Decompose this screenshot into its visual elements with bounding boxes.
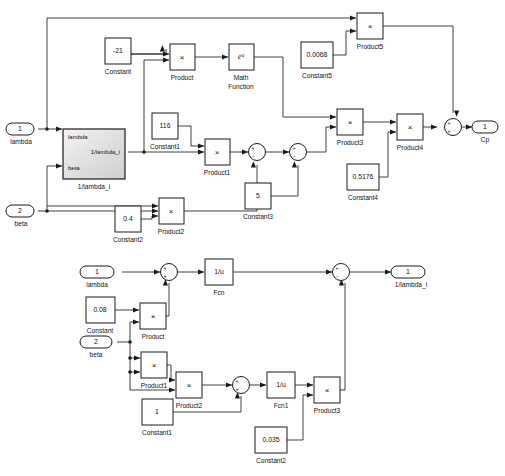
product-block-product4-name: Product4 (397, 144, 424, 151)
product-block-product3[interactable]: × Product3 (337, 109, 364, 146)
sum-block-bottom-sum-sign1: + (163, 265, 166, 271)
subsystem-1-over-lambda-i[interactable]: lambda beta 1/lambda_i 1/lambda_i (63, 129, 125, 191)
sum-block-bottom-sum2-sign-plus: + (335, 265, 338, 271)
inport-beta-bottom[interactable]: 2 beta (80, 336, 112, 358)
product-block-product3-symbol: × (348, 118, 353, 127)
fcn-block-fcn-expr: 1/u (214, 268, 224, 275)
inport-lambda-bottom-label: lambda (86, 281, 108, 288)
product-block-product[interactable]: × Product (170, 44, 195, 81)
constant-block-0-0068-value: 0.0068 (307, 51, 328, 58)
constant-block-0-0068-name: Constant5 (302, 72, 332, 79)
inport-beta-top-label: beta (15, 220, 28, 227)
constant-block-minus21-value: -21 (113, 47, 123, 54)
product-block-bottom-product3-name: Product3 (314, 407, 341, 414)
inport-beta-top-number: 2 (18, 207, 22, 214)
product-block-product4[interactable]: × Product4 (397, 114, 424, 151)
constant-block-0-08[interactable]: 0.08 Constant (86, 297, 115, 334)
product-block-product4-symbol: × (408, 123, 413, 132)
inport-beta-top[interactable]: 2 beta (6, 205, 34, 227)
inport-beta-bottom-number: 2 (94, 338, 98, 345)
constant-block-0-4[interactable]: 0.4 Constant2 (113, 206, 143, 243)
product-block-product5-name: Product5 (357, 43, 384, 50)
subsystem-name: 1/lambda_i (78, 183, 111, 191)
constant-block-minus21[interactable]: -21 Constant (105, 38, 132, 75)
constant-block-0-035-value: 0.035 (262, 436, 279, 443)
constant-block-116-name: Constant1 (150, 143, 180, 150)
constant-block-0-4-name: Constant2 (113, 236, 143, 243)
fcn-block-fcn1-expr: 1/u (276, 381, 286, 388)
constant-block-116-value: 116 (160, 122, 171, 129)
constant-block-1-value: 1 (155, 408, 159, 415)
product-block-product5[interactable]: × Product5 (357, 13, 384, 50)
product-block-bottom-product3[interactable]: × Product3 (314, 377, 341, 414)
product-block-bottom-product3-symbol: × (325, 386, 330, 395)
product-block-product2-name: Product2 (158, 228, 185, 235)
product-block-product1-name: Product1 (204, 169, 231, 176)
inport-lambda-bottom-number: 1 (95, 268, 99, 275)
product-block-bottom-product-name: Product (142, 333, 165, 340)
product-block-product-name: Product (171, 74, 194, 81)
sum-block-bottom-sum-sign2: + (163, 273, 166, 279)
sum-block-sum1[interactable]: + − (290, 144, 307, 161)
constant-block-5-name: Constant3 (243, 213, 273, 220)
constant-block-0-5176-name: Constant4 (348, 194, 378, 201)
product-block-bottom-product-symbol: × (151, 312, 156, 321)
inport-beta-bottom-label: beta (90, 351, 103, 358)
math-function-block-name-line2: Function (228, 83, 254, 90)
product-block-bottom-product2[interactable]: × Product2 (176, 372, 203, 409)
sum-block-bottom-sum2[interactable]: + − (333, 264, 350, 281)
product-block-bottom-product[interactable]: × Product (140, 303, 166, 340)
constant-block-0-08-name: Constant (87, 327, 114, 334)
product-block-bottom-product2-symbol: × (187, 381, 192, 390)
product-block-product1[interactable]: × Product1 (204, 139, 231, 176)
math-function-block-name-line1: Math (234, 74, 249, 81)
sum-block-sum-sign-minus: − (251, 153, 254, 159)
sum-block-bottom-sum1[interactable]: + + (233, 377, 250, 394)
sum-block-sum2-sign-plus2: + (447, 128, 450, 134)
sum-block-bottom-sum2-sign-minus: − (335, 273, 338, 279)
inport-lambda-top-label: lambda (10, 138, 32, 145)
product-block-bottom-product2-name: Product2 (176, 402, 203, 409)
constant-block-minus21-name: Constant (105, 68, 132, 75)
constant-block-0-4-value: 0.4 (123, 215, 133, 222)
sum-block-sum2-sign-plus1: + (447, 120, 450, 126)
fcn-block-fcn1-name: Fcn1 (274, 402, 289, 409)
outport-1-over-lambda-i-number: 1 (406, 268, 410, 275)
outport-1-over-lambda-i-label: 1/lambda_i (395, 281, 428, 289)
product-block-bottom-product1-symbol: × (152, 361, 157, 370)
constant-block-116[interactable]: 116 Constant1 (150, 113, 180, 150)
inport-lambda-top-number: 1 (18, 125, 22, 132)
constant-block-5-value: 5 (256, 192, 260, 199)
diagram-canvas: 1 lambda 2 beta lambda beta 1/lambda_i 1… (0, 0, 505, 476)
subsystem-outport-label: 1/lambda_i (91, 149, 120, 155)
constant-block-0-0068[interactable]: 0.0068 Constant5 (301, 42, 333, 79)
product-block-product3-name: Product3 (337, 139, 364, 146)
sum-block-bottom-sum1-sign2: + (235, 386, 238, 392)
product-block-product2-symbol: × (169, 207, 174, 216)
sum-block-sum[interactable]: + − (249, 144, 266, 161)
constant-block-1[interactable]: 1 Constant1 (142, 399, 173, 436)
inport-lambda-top[interactable]: 1 lambda (6, 123, 34, 145)
inport-lambda-bottom[interactable]: 1 lambda (80, 266, 114, 288)
constant-block-0-5176[interactable]: 0.5176 Constant4 (347, 164, 379, 201)
fcn-block-fcn1[interactable]: 1/u Fcn1 (267, 372, 295, 409)
product-block-product2[interactable]: × Product2 (158, 198, 185, 235)
subsystem-inport-lambda-label: lambda (68, 134, 88, 140)
constant-block-5[interactable]: 5 Constant3 (243, 183, 273, 220)
sum-block-sum2[interactable]: + + (445, 119, 462, 136)
fcn-block-fcn-name: Fcn (214, 289, 225, 296)
sum-block-sum-sign-plus: + (251, 145, 254, 151)
sum-block-bottom-sum[interactable]: + + (161, 264, 178, 281)
math-function-block[interactable]: eᵘ Math Function (228, 44, 254, 90)
sum-block-bottom-sum1-sign1: + (235, 378, 238, 384)
outport-1-over-lambda-i[interactable]: 1 1/lambda_i (391, 266, 428, 289)
math-function-block-symbol: eᵘ (238, 52, 245, 61)
outport-cp[interactable]: 1 Cp (472, 121, 498, 144)
sum-block-sum1-sign-minus: − (292, 153, 295, 159)
product-block-bottom-product1[interactable]: × Product1 (141, 352, 168, 389)
constant-block-0-035-name: Constant2 (256, 457, 286, 464)
sum-block-sum1-sign-plus: + (292, 145, 295, 151)
fcn-block-fcn[interactable]: 1/u Fcn (205, 259, 233, 296)
constant-block-0-5176-value: 0.5176 (353, 173, 374, 180)
constant-block-0-035[interactable]: 0.035 Constant2 (255, 427, 287, 464)
